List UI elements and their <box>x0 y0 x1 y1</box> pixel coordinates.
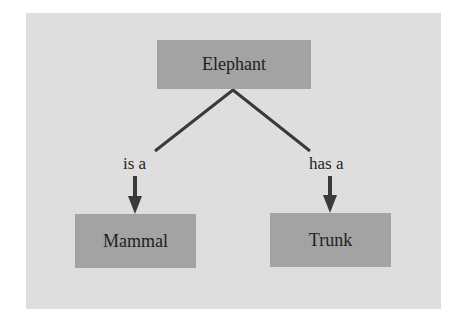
is-a-arrow-head-icon <box>128 196 142 214</box>
edge-label-is-a: is a <box>123 154 146 174</box>
has-a-arrow-head-icon <box>323 195 337 213</box>
node-elephant-label: Elephant <box>202 54 266 75</box>
node-trunk: Trunk <box>270 213 391 267</box>
node-elephant: Elephant <box>157 40 311 89</box>
node-trunk-label: Trunk <box>309 230 352 251</box>
branch-connector <box>155 90 310 151</box>
edge-label-has-a: has a <box>309 154 343 174</box>
node-mammal-label: Mammal <box>103 231 168 252</box>
node-mammal: Mammal <box>75 214 196 268</box>
